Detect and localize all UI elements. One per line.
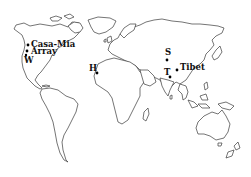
marker-label-h: H [89, 63, 97, 73]
marker-label-w: W [23, 55, 34, 65]
tasmania-outline [218, 143, 222, 146]
greenland-outline [88, 17, 116, 34]
arctic-islands-outline [50, 14, 74, 21]
new-guinea-outline [218, 102, 234, 110]
british-isles-outline [104, 36, 112, 43]
philippines-outline [204, 82, 208, 90]
marker-label-t: T [164, 67, 171, 77]
marker-w[interactable]: W [23, 54, 34, 65]
south-america-outline [40, 88, 78, 162]
australia-outline [196, 110, 230, 140]
marker-t[interactable]: T [164, 67, 171, 78]
new-zealand-outline [226, 142, 240, 158]
world-map: Casa-Mia Array W H S T Tibet [0, 0, 251, 177]
location-dot-icon [176, 69, 179, 72]
indonesia-outline [188, 94, 210, 108]
marker-h[interactable]: H [89, 63, 98, 74]
madagascar-outline [143, 108, 149, 121]
location-dot-icon [27, 44, 30, 47]
marker-label-s: S [165, 47, 171, 57]
location-dot-icon [26, 50, 29, 53]
sri-lanka-outline [170, 95, 172, 99]
japan-outline [212, 46, 222, 60]
caribbean-outline [42, 85, 50, 87]
southeast-asia-outline [178, 84, 188, 100]
marker-tibet[interactable]: Tibet [176, 62, 205, 72]
location-dot-icon [166, 59, 169, 62]
marker-label-tibet: Tibet [180, 62, 205, 72]
marker-label-array: Array [30, 46, 58, 56]
